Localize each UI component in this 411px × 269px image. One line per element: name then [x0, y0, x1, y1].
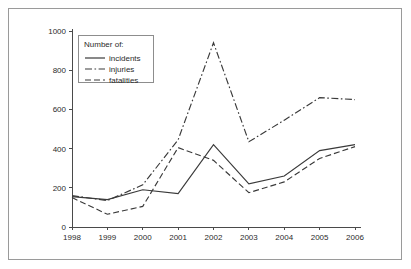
y-tick-label: 800	[53, 66, 67, 75]
legend-label-fatalities: fatalities	[109, 76, 138, 85]
x-tick-label: 2004	[275, 233, 293, 242]
line-chart: 0200400600800100019981999200020012002200…	[0, 0, 411, 269]
x-tick-label: 2003	[240, 233, 258, 242]
x-tick-label: 2000	[134, 233, 152, 242]
x-tick-label: 2001	[169, 233, 187, 242]
series-line-fatalities	[72, 147, 355, 215]
x-tick-label: 1999	[98, 233, 116, 242]
x-tick-label: 2002	[205, 233, 223, 242]
legend-title: Number of:	[84, 40, 124, 49]
chart-figure: 0200400600800100019981999200020012002200…	[0, 0, 411, 269]
x-tick-label: 2005	[311, 233, 329, 242]
chart-legend: Number of:incidentsinjuriesfatalities	[78, 35, 153, 85]
y-tick-label: 400	[53, 145, 67, 154]
y-tick-label: 1000	[48, 27, 66, 36]
y-tick-label: 0	[62, 223, 67, 232]
legend-label-injuries: injuries	[109, 65, 134, 74]
y-tick-label: 600	[53, 105, 67, 114]
series-line-incidents	[72, 145, 355, 200]
x-tick-label: 2006	[346, 233, 364, 242]
y-tick-label: 200	[53, 184, 67, 193]
x-tick-label: 1998	[63, 233, 81, 242]
legend-label-incidents: incidents	[109, 54, 141, 63]
